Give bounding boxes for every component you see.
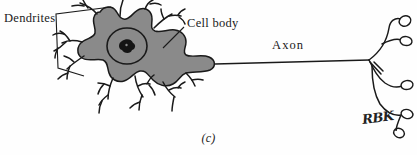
neuron-diagram-figure: Dendrites Cell body Axon (c) RBK: [0, 0, 417, 155]
synaptic-boutons: [392, 14, 414, 139]
axon-terminal-branches: [369, 18, 402, 115]
label-dendrites: Dendrites: [4, 11, 55, 26]
axon-line: [215, 60, 369, 64]
figure-caption: (c): [0, 131, 417, 146]
label-axon: Axon: [272, 38, 304, 53]
label-cell-body: Cell body: [187, 16, 239, 31]
